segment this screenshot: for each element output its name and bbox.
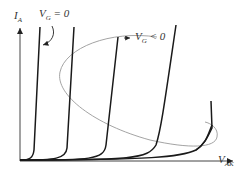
y-axis-label: IA bbox=[14, 9, 22, 24]
diagram-canvas: IA VG = 0 VG < 0 VAK bbox=[0, 0, 246, 176]
vg-negative-loop bbox=[60, 35, 218, 146]
vg-zero-pointer bbox=[43, 26, 54, 45]
curve-1 bbox=[20, 27, 40, 160]
x-axis-label: VAK bbox=[218, 153, 234, 168]
curve-5 bbox=[20, 101, 212, 160]
iv-plot bbox=[0, 0, 246, 176]
vg-negative-label: VG < 0 bbox=[135, 30, 165, 45]
vg-zero-label: VG = 0 bbox=[39, 7, 69, 22]
